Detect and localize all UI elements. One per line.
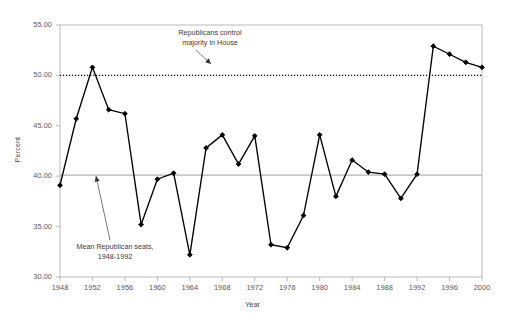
data-point-marker [269,242,274,247]
y-tick-label: 40.00 [10,171,52,180]
data-point-marker [106,107,111,112]
y-tick-label: 35.00 [10,222,52,231]
x-tick-label: 2000 [460,283,504,292]
y-tick-label: 55.00 [10,20,52,29]
data-point-marker [139,222,144,227]
data-point-marker [480,65,485,70]
data-point-marker [74,116,79,121]
data-point-marker [90,65,95,70]
data-point-marker [301,213,306,218]
mean-annotation-line1: Mean Republican seats, [52,242,178,252]
data-point-marker [463,60,468,65]
mean-annotation: Mean Republican seats, 1948-1992 [52,242,178,262]
data-point-marker [447,52,452,57]
data-point-marker [58,183,63,188]
data-point-marker [334,194,339,199]
data-point-marker [285,245,290,250]
plot-border [60,25,482,277]
data-point-marker [317,132,322,137]
mean-annotation-line2: 1948-1992 [52,252,178,262]
mean-annotation-arrow-shaft [96,176,110,240]
x-axis-title: Year [0,300,505,309]
majority-annotation: Republicans control majority in House [150,28,270,48]
data-point-marker [155,177,160,182]
mean-annotation-arrow-head [95,176,100,182]
majority-annotation-line2: majority in House [150,38,270,48]
y-tick-label: 30.00 [10,272,52,281]
data-series-line [60,46,482,255]
data-point-marker [123,111,128,116]
data-point-marker [187,252,192,257]
majority-annotation-line1: Republicans control [150,28,270,38]
y-tick-label: 45.00 [10,121,52,130]
y-tick-label: 50.00 [10,70,52,79]
data-point-marker [431,44,436,49]
republican-seats-line-chart: Percent Year Republicans control majorit… [0,0,505,332]
